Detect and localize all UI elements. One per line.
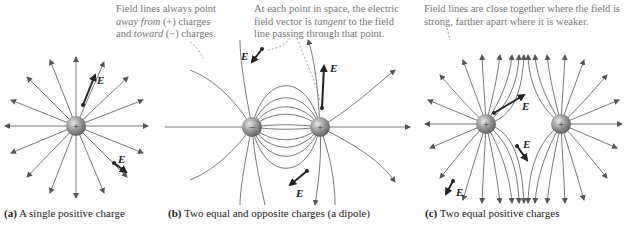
charges: + − + + + xyxy=(66,114,571,137)
svg-text:−: − xyxy=(249,121,255,133)
svg-text:E: E xyxy=(240,50,248,62)
svg-text:E: E xyxy=(522,138,530,150)
caption-text: Two equal positive charges xyxy=(440,207,560,219)
panel-b-field-lines xyxy=(165,40,410,205)
svg-text:E: E xyxy=(117,153,125,165)
svg-text:E: E xyxy=(329,62,337,74)
caption-label: (b) xyxy=(168,207,181,219)
caption-label: (a) xyxy=(4,207,17,219)
svg-text:+: + xyxy=(483,118,489,130)
panel-a-e-vectors: E E xyxy=(81,74,126,172)
caption-c: (c) Two equal positive charges xyxy=(425,207,559,219)
caption-label: (c) xyxy=(425,207,437,219)
panel-b-leader-lines xyxy=(190,28,450,100)
svg-text:E: E xyxy=(96,74,104,86)
svg-text:E: E xyxy=(455,186,463,198)
svg-text:E: E xyxy=(295,187,303,199)
caption-b: (b) Two equal and opposite charges (a di… xyxy=(168,207,370,219)
svg-text:E: E xyxy=(521,100,529,112)
caption-text: Two equal and opposite charges (a dipole… xyxy=(184,207,370,219)
svg-text:+: + xyxy=(73,120,79,132)
caption-a: (a) A single positive charge xyxy=(4,207,125,219)
svg-text:+: + xyxy=(558,118,564,130)
field-diagram: E E E E E xyxy=(0,0,633,226)
svg-text:+: + xyxy=(317,121,323,133)
caption-text: A single positive charge xyxy=(19,207,125,219)
